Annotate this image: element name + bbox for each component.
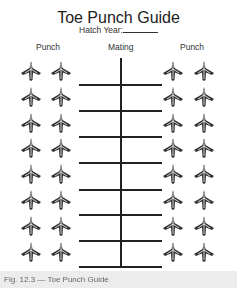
mating-line bbox=[79, 84, 162, 86]
duck-foot-icon bbox=[50, 241, 72, 263]
duck-foot-icon bbox=[193, 60, 215, 82]
duck-foot-icon bbox=[20, 163, 42, 185]
duck-foot-icon bbox=[20, 112, 42, 134]
duck-foot-icon bbox=[20, 137, 42, 159]
duck-foot-icon bbox=[162, 189, 184, 211]
toe-punch-guide-page: Toe Punch Guide Hatch Year: Punch Mating… bbox=[0, 0, 237, 271]
duck-foot-icon bbox=[50, 137, 72, 159]
duck-foot-icon bbox=[50, 86, 72, 108]
column-header-mating: Mating bbox=[108, 42, 134, 52]
mating-line bbox=[79, 214, 162, 216]
duck-foot-icon bbox=[50, 163, 72, 185]
duck-foot-icon bbox=[162, 241, 184, 263]
duck-foot-icon bbox=[50, 112, 72, 134]
duck-foot-icon bbox=[193, 112, 215, 134]
page-title: Toe Punch Guide bbox=[0, 10, 237, 26]
mating-line bbox=[79, 266, 162, 268]
hatch-year-label: Hatch Year: bbox=[79, 25, 123, 35]
mating-line bbox=[79, 136, 162, 138]
duck-foot-icon bbox=[50, 189, 72, 211]
duck-foot-icon bbox=[162, 163, 184, 185]
duck-foot-icon bbox=[20, 215, 42, 237]
duck-foot-icon bbox=[162, 137, 184, 159]
duck-foot-icon bbox=[193, 86, 215, 108]
hatch-year-blank bbox=[123, 25, 158, 33]
column-header-punch-right: Punch bbox=[180, 42, 204, 52]
duck-foot-icon bbox=[193, 137, 215, 159]
figure-caption: Fig. 12.3 — Toe Punch Guide bbox=[0, 271, 237, 288]
duck-foot-icon bbox=[193, 215, 215, 237]
duck-foot-icon bbox=[162, 86, 184, 108]
duck-foot-icon bbox=[20, 60, 42, 82]
duck-foot-icon bbox=[162, 215, 184, 237]
duck-foot-icon bbox=[20, 241, 42, 263]
duck-foot-icon bbox=[193, 189, 215, 211]
duck-foot-icon bbox=[162, 112, 184, 134]
duck-foot-icon bbox=[20, 86, 42, 108]
duck-foot-icon bbox=[20, 189, 42, 211]
hatch-year-field: Hatch Year: bbox=[0, 25, 237, 35]
column-header-punch-left: Punch bbox=[36, 42, 60, 52]
duck-foot-icon bbox=[162, 60, 184, 82]
mating-line bbox=[79, 162, 162, 164]
mating-line bbox=[79, 189, 162, 191]
duck-foot-icon bbox=[193, 163, 215, 185]
duck-foot-icon bbox=[50, 60, 72, 82]
duck-foot-icon bbox=[193, 241, 215, 263]
mating-line bbox=[79, 240, 162, 242]
mating-line bbox=[79, 110, 162, 112]
duck-foot-icon bbox=[50, 215, 72, 237]
